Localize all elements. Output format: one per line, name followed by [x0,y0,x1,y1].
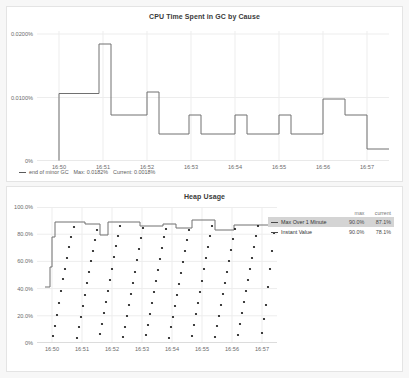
x-tick-cpu-5: 16:55 [272,164,286,170]
legend-table-heap[interactable]: max current Max Over 1 Minute 90.0% 87.1… [268,210,394,237]
y-tick-cpu-2: 0.0200% [11,31,33,37]
legend-current-value-0: 87.1% [367,217,394,227]
y-tick-heap-5: 100.0% [14,204,33,210]
x-tick-cpu-4: 16:54 [228,164,242,170]
x-tick-cpu-3: 16:53 [184,164,198,170]
series-max-over-1-minute [45,220,277,287]
series-end-of-minor-gc [59,44,389,161]
legend-max-value-0: 90.0% [342,217,368,227]
panel-title-cpu: CPU Time Spent in GC by Cause [7,13,402,20]
x-tick-heap-5: 16:55 [195,346,209,352]
legend-max-value: Max: 0.0182% [74,169,108,175]
y-tick-heap-2: 40.0% [17,286,33,292]
y-tick-heap-3: 60.0% [17,258,33,264]
x-tick-heap-3: 16:53 [135,346,149,352]
x-tick-heap-0: 16:50 [45,346,59,352]
y-tick-cpu-1: 0.0100% [11,95,33,101]
legend-name-cell-1: Instant Value [268,227,342,237]
y-tick-heap-0: 0% [25,340,33,346]
plot-area-heap: 0% 20.0% 40.0% 60.0% 80.0% 100.0% 16:50 … [37,207,277,343]
legend-line-icon [19,172,26,173]
x-tick-heap-1: 16:51 [75,346,89,352]
series-instant-value [52,225,275,339]
x-tick-cpu-7: 16:57 [360,164,374,170]
legend-series-label: end of minor GC [29,169,69,175]
legend-line-icon-max [271,222,278,223]
legend-cpu[interactable]: end of minor GC Max: 0.0182% Current: 0.… [19,169,160,175]
panel-title-heap: Heap Usage [7,193,402,200]
legend-header-name [268,210,342,217]
legend-label-instant-value: Instant Value [281,229,312,235]
x-tick-cpu-6: 16:56 [316,164,330,170]
legend-label-max-over-1-minute: Max Over 1 Minute [281,219,327,225]
x-tick-heap-4: 16:54 [165,346,179,352]
legend-name-cell-0: Max Over 1 Minute [268,217,342,227]
legend-line-icon-instant [271,232,278,233]
y-tick-cpu-0: 0% [25,158,33,164]
x-tick-heap-7: 16:57 [255,346,269,352]
legend-row-instant-value[interactable]: Instant Value 90.0% 78.1% [268,227,394,237]
heap-chart-svg [37,207,277,343]
cpu-chart-svg [37,31,389,161]
panel-cpu-time-gc: CPU Time Spent in GC by Cause 0% 0.0100%… [6,6,403,182]
legend-header-max: max [342,210,368,217]
legend-current-value: Current: 0.0018% [113,169,155,175]
legend-header-current: current [367,210,394,217]
x-tick-heap-2: 16:52 [105,346,119,352]
grid-lines [37,31,389,161]
legend-row-max-over-1-minute[interactable]: Max Over 1 Minute 90.0% 87.1% [268,217,394,227]
plot-area-cpu: 0% 0.0100% 0.0200% 16:50 16:51 16:52 16:… [37,31,389,161]
legend-header-row: max current [268,210,394,217]
legend-max-value-1: 90.0% [342,227,368,237]
y-tick-heap-1: 20.0% [17,313,33,319]
x-tick-heap-6: 16:56 [225,346,239,352]
legend-current-value-1: 78.1% [367,227,394,237]
y-tick-heap-4: 80.0% [17,231,33,237]
dashboard-root: CPU Time Spent in GC by Cause 0% 0.0100%… [0,0,409,378]
